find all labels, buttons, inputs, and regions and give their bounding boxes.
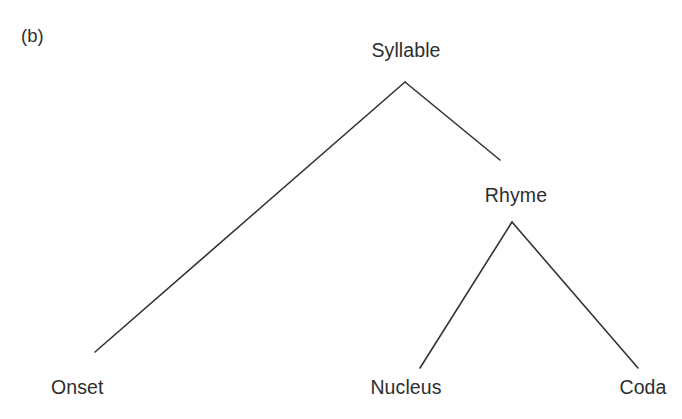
edge-syllable-to-onset [95, 82, 405, 352]
node-label-coda: Coda [619, 377, 666, 397]
edge-rhyme-to-coda [512, 222, 638, 368]
figure-container: (b) Syllable Rhyme Onset Nucleus Coda [0, 0, 682, 419]
tree-edges-svg [0, 0, 682, 419]
node-label-syllable: Syllable [371, 40, 440, 60]
node-label-onset: Onset [51, 377, 104, 397]
edge-syllable-to-rhyme [405, 82, 500, 160]
node-label-rhyme: Rhyme [485, 185, 547, 205]
node-label-nucleus: Nucleus [370, 377, 441, 397]
edge-rhyme-to-nucleus [420, 222, 512, 368]
